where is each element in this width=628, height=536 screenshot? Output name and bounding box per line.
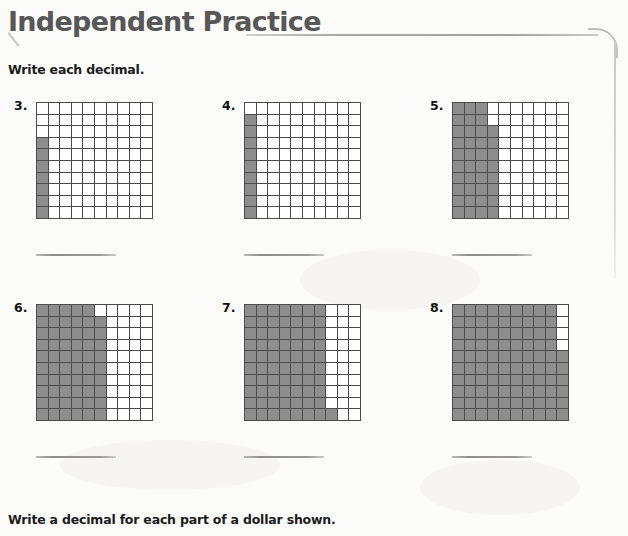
answer-line[interactable]	[452, 254, 532, 256]
grid-cell-empty	[130, 184, 142, 196]
grid-cell-shaded	[257, 351, 269, 363]
grid-cell-shaded	[488, 305, 500, 317]
grid-cell-shaded	[72, 317, 84, 329]
grid-cell-empty	[557, 305, 569, 317]
grid-cell-empty	[338, 103, 350, 115]
grid-cell-empty	[118, 149, 130, 161]
grid-cell-empty	[338, 363, 350, 375]
paper-texture	[420, 460, 580, 515]
grid-cell-shaded	[465, 161, 477, 173]
grid-cell-shaded	[534, 351, 546, 363]
grid-cell-shaded	[245, 126, 257, 138]
grid-cell-empty	[291, 103, 303, 115]
grid-cell-shaded	[465, 398, 477, 410]
grid-cell-empty	[511, 103, 523, 115]
grid-cell-empty	[291, 126, 303, 138]
grid-cell-shaded	[476, 317, 488, 329]
grid-cell-shaded	[280, 363, 292, 375]
grid-cell-empty	[49, 173, 61, 185]
answer-line[interactable]	[244, 254, 324, 256]
grid-cell-empty	[557, 126, 569, 138]
grid-cell-shaded	[245, 375, 257, 387]
grid-cell-shaded	[476, 409, 488, 421]
answer-line[interactable]	[36, 254, 116, 256]
grid-cell-shaded	[546, 363, 558, 375]
grid-cell-shaded	[476, 340, 488, 352]
answer-line[interactable]	[36, 456, 116, 458]
grid-cell-empty	[95, 126, 107, 138]
grid-cell-shaded	[303, 328, 315, 340]
grid-cell-empty	[557, 196, 569, 208]
grid-cell-shaded	[465, 149, 477, 161]
grid-cell-shaded	[511, 375, 523, 387]
grid-cell-empty	[557, 115, 569, 127]
grid-cell-shaded	[523, 386, 535, 398]
grid-cell-shaded	[95, 363, 107, 375]
grid-cell-shaded	[557, 398, 569, 410]
grid-cell-shaded	[476, 173, 488, 185]
grid-cell-shaded	[291, 363, 303, 375]
grid-cell-empty	[130, 328, 142, 340]
grid-cell-empty	[280, 103, 292, 115]
grid-cell-shaded	[245, 149, 257, 161]
grid-cell-empty	[268, 184, 280, 196]
grid-cell-shaded	[523, 398, 535, 410]
grid-cell-empty	[349, 115, 361, 127]
grid-cell-empty	[338, 173, 350, 185]
grid-cell-shaded	[546, 328, 558, 340]
grid-cell-empty	[349, 207, 361, 219]
grid-cell-shaded	[280, 340, 292, 352]
grid-cell-shaded	[268, 386, 280, 398]
grid-cell-empty	[118, 375, 130, 387]
grid-cell-empty	[60, 149, 72, 161]
grid-cell-shaded	[60, 305, 72, 317]
grid-cell-empty	[141, 409, 153, 421]
grid-cell-empty	[95, 138, 107, 150]
grid-cell-shaded	[49, 305, 61, 317]
grid-cell-empty	[291, 161, 303, 173]
grid-cell-empty	[130, 363, 142, 375]
grid-cell-empty	[118, 340, 130, 352]
grid-cell-shaded	[557, 409, 569, 421]
grid-cell-shaded	[83, 363, 95, 375]
grid-cell-shaded	[315, 317, 327, 329]
grid-cell-shaded	[315, 386, 327, 398]
grid-cell-empty	[118, 317, 130, 329]
grid-cell-empty	[72, 126, 84, 138]
grid-cell-shaded	[453, 173, 465, 185]
grid-cell-empty	[534, 184, 546, 196]
grid-cell-empty	[49, 207, 61, 219]
grid-cell-shaded	[280, 351, 292, 363]
grid-cell-empty	[83, 161, 95, 173]
grid-cell-empty	[523, 207, 535, 219]
grid-cell-shaded	[453, 386, 465, 398]
grid-cell-empty	[60, 138, 72, 150]
grid-cell-shaded	[465, 196, 477, 208]
answer-line[interactable]	[452, 456, 532, 458]
grid-cell-shaded	[488, 351, 500, 363]
grid-cell-empty	[118, 138, 130, 150]
grid-cell-shaded	[268, 305, 280, 317]
grid-cell-shaded	[499, 386, 511, 398]
grid-cell-empty	[349, 184, 361, 196]
grid-cell-shaded	[37, 328, 49, 340]
grid-cell-shaded	[245, 196, 257, 208]
grid-cell-shaded	[476, 196, 488, 208]
grid-cell-empty	[338, 138, 350, 150]
grid-cell-empty	[49, 138, 61, 150]
grid-cell-shaded	[465, 126, 477, 138]
grid-cell-empty	[268, 196, 280, 208]
grid-cell-empty	[280, 173, 292, 185]
grid-cell-shaded	[534, 305, 546, 317]
grid-cell-empty	[326, 173, 338, 185]
grid-cell-shaded	[95, 317, 107, 329]
grid-cell-empty	[118, 207, 130, 219]
grid-cell-empty	[268, 103, 280, 115]
grid-cell-empty	[523, 115, 535, 127]
grid-cell-shaded	[257, 340, 269, 352]
grid-cell-shaded	[303, 386, 315, 398]
grid-cell-shaded	[465, 184, 477, 196]
answer-line[interactable]	[244, 456, 324, 458]
grid-cell-empty	[557, 340, 569, 352]
grid-cell-shaded	[488, 207, 500, 219]
